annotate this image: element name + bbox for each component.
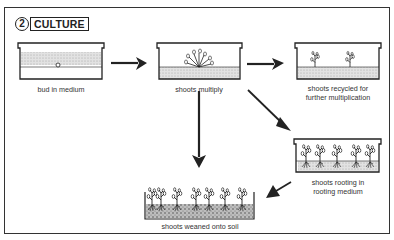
culture-process-diagram — [0, 0, 394, 240]
shoot-icon — [346, 51, 355, 67]
label-shoots-multiply: shoots multiply — [158, 85, 240, 94]
weaned-tray — [145, 188, 254, 219]
shoot-cluster-icon — [185, 49, 214, 67]
bud-icon — [56, 63, 60, 67]
label-shoots-recycled: shoots recycled for further multiplicati… — [290, 84, 386, 102]
recycled-container — [295, 43, 381, 79]
label-shoots-weaned: shoots weaned onto soil — [140, 222, 260, 231]
shoot-icon — [311, 51, 320, 67]
arrow-diagonal-icon — [266, 185, 280, 198]
label-bud-in-medium: bud in medium — [20, 85, 102, 94]
multiply-container — [157, 43, 242, 79]
bud-container — [18, 43, 104, 79]
rooting-container — [294, 139, 381, 172]
label-shoots-rooting: shoots rooting in rooting medium — [294, 178, 382, 196]
